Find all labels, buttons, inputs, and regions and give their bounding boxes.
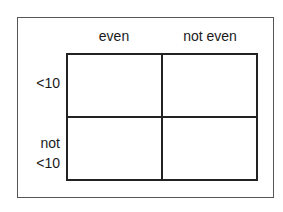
cell-even-less-than-10 [68,55,162,117]
row-header-line: <10 [36,73,60,93]
row-header-less-than-10: <10 [36,73,60,93]
row-header-not-less-than-10: not <10 [36,133,60,173]
row-header-line: <10 [36,153,60,173]
row-header-line: not [36,133,60,153]
cell-even-not-less-than-10 [68,117,162,179]
column-header-even: even [66,28,162,44]
classification-grid [66,53,258,181]
cell-not-even-not-less-than-10 [162,117,256,179]
column-header-not-even: not even [162,28,258,44]
cell-not-even-less-than-10 [162,55,256,117]
